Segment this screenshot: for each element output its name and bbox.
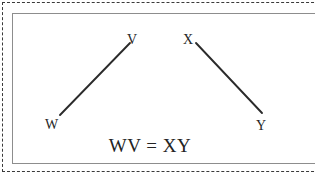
congruence-equation: WV = XY	[0, 136, 300, 157]
vertex-label-x: X	[183, 33, 193, 47]
vertex-label-y: Y	[256, 119, 266, 133]
figure-screenshot: W V X Y WV = XY	[0, 0, 315, 173]
vertex-label-v: V	[127, 33, 137, 47]
segment-xy	[196, 43, 262, 113]
vertex-label-w: W	[45, 118, 58, 132]
segment-wv	[60, 43, 130, 115]
